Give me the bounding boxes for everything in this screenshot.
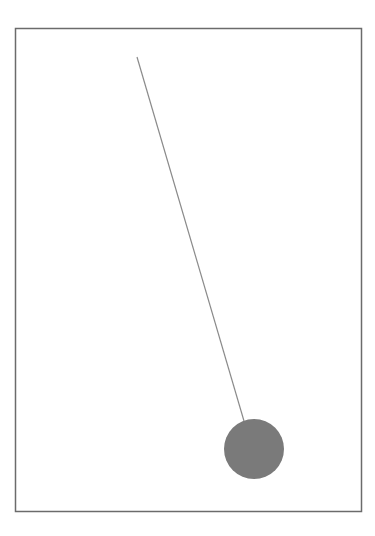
frame-border: [16, 29, 362, 512]
pendulum-string: [137, 57, 244, 421]
pendulum-diagram: [0, 0, 375, 536]
pendulum-bob: [224, 419, 284, 479]
